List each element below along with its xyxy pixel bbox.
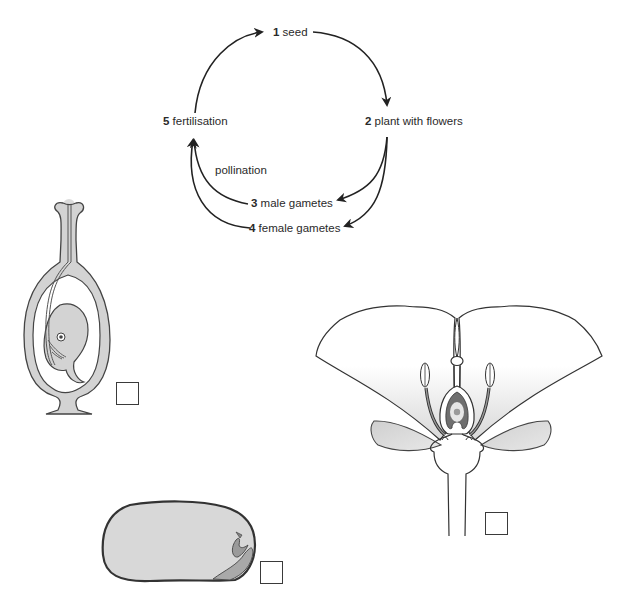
seed-answer-box[interactable] [260,561,283,584]
seed-illustration [0,0,623,611]
